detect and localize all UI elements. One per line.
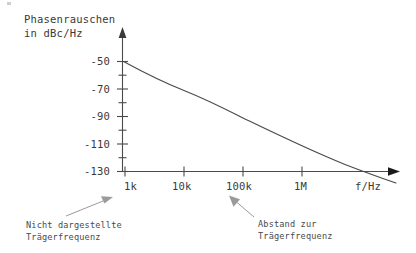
y-tick-label-minus70: -70	[66, 83, 110, 95]
y-tick-label-minus90: -90	[66, 110, 110, 122]
x-tick-label-100k: 100k	[226, 180, 252, 192]
y-tick-label-minus110: -110	[66, 138, 110, 150]
phase-noise-figure: Phasenrauschen in dBc/Hz	[0, 0, 416, 253]
plot-canvas	[0, 0, 416, 253]
annotation-offset-from-carrier: Abstand zur Trägerfrequenz	[258, 219, 333, 242]
y-tick-label-minus50: -50	[66, 55, 110, 67]
annotation-carrier-not-shown: Nicht dargestellte Trägerfrequenz	[26, 220, 122, 243]
left-annotation-arrow	[66, 199, 108, 216]
y-axis-arrowhead	[119, 27, 127, 38]
x-tick-label-10k: 10k	[172, 180, 192, 192]
x-axis-label: f/Hz	[355, 180, 381, 192]
right-annotation-arrowhead	[229, 196, 240, 207]
x-axis-arrowhead	[388, 167, 400, 175]
phase-noise-curve	[124, 62, 397, 184]
x-tick-label-1k: 1k	[124, 180, 137, 192]
y-tick-label-minus130: -130	[66, 165, 110, 177]
left-annotation-arrowhead	[101, 196, 113, 203]
x-tick-label-1M: 1M	[294, 180, 307, 192]
